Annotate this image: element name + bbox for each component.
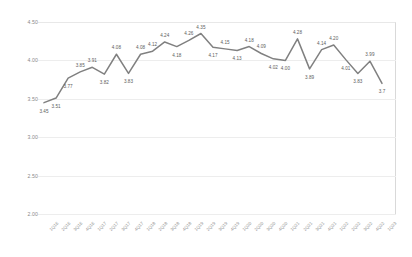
- data-point-label: 4.08: [136, 45, 145, 50]
- data-point-label: 4.18: [245, 37, 254, 42]
- data-point-label: 4.35: [196, 24, 205, 29]
- data-point-label: 3.83: [353, 79, 362, 84]
- data-point-label: 3.7: [379, 89, 386, 94]
- data-point-label: 4.20: [329, 36, 338, 41]
- data-point-label: 4.12: [148, 42, 157, 47]
- data-point-label: 3.82: [100, 80, 109, 85]
- data-point-label: 4.15: [220, 39, 229, 44]
- data-point-label: 3.45: [39, 108, 48, 113]
- data-point-label: 4.24: [160, 32, 169, 37]
- data-point-label: 4.02: [269, 64, 278, 69]
- data-point-label: 3.99: [365, 52, 374, 57]
- data-point-label: 3.89: [305, 74, 314, 79]
- data-point-label: 4.26: [184, 31, 193, 36]
- data-point-label: 4.28: [293, 29, 302, 34]
- data-point-label: 4.00: [281, 66, 290, 71]
- data-point-label: 4.18: [172, 52, 181, 57]
- data-point-label: 3.77: [64, 84, 73, 89]
- data-point-label: 4.17: [208, 53, 217, 58]
- data-point-label: 3.83: [124, 79, 133, 84]
- data-point-label: 4.14: [317, 40, 326, 45]
- data-point-label: 4.08: [112, 45, 121, 50]
- data-point-label: 3.85: [76, 62, 85, 67]
- series-line: [0, 0, 412, 257]
- series-polyline: [44, 34, 382, 103]
- data-point-label: 4.01: [341, 65, 350, 70]
- line-chart: 2.002.503.003.504.004.50 3.453.513.773.8…: [0, 0, 412, 257]
- data-point-label: 4.13: [233, 56, 242, 61]
- data-point-label: 3.51: [51, 104, 60, 109]
- data-point-label: 3.91: [88, 58, 97, 63]
- data-point-label: 4.09: [257, 44, 266, 49]
